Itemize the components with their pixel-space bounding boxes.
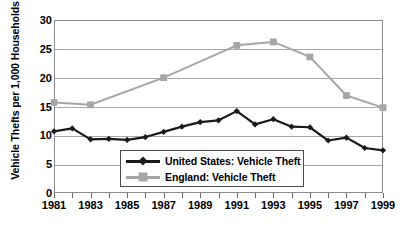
x-tick-mark: [255, 193, 256, 198]
y-tick-label: 30: [6, 14, 52, 27]
x-tick-mark: [292, 193, 293, 198]
legend-label-united-states: United States: Vehicle Theft: [165, 155, 300, 167]
x-tick-mark: [365, 193, 366, 198]
y-axis-ticks: 051015202530: [0, 0, 52, 229]
legend-label-england: England: Vehicle Theft: [165, 171, 275, 183]
x-tick-mark: [310, 193, 311, 198]
x-tick-mark: [383, 193, 384, 198]
x-tick-mark: [109, 193, 110, 198]
x-tick-mark: [145, 193, 146, 198]
y-tick-label: 0: [6, 187, 52, 200]
gridline: [55, 107, 382, 108]
vehicle-theft-line-chart: Vehicle Thefts per 1,000 Households 0510…: [0, 0, 409, 229]
x-tick-label: 1991: [225, 199, 249, 211]
gridline: [55, 49, 382, 50]
x-tick-mark: [54, 193, 55, 198]
x-tick-mark: [237, 193, 238, 198]
x-tick-mark: [164, 193, 165, 198]
x-tick-mark: [200, 193, 201, 198]
y-tick-label: 15: [6, 100, 52, 113]
x-tick-label: 1995: [298, 199, 322, 211]
x-tick-label: 1989: [188, 199, 212, 211]
x-tick-label: 1999: [371, 199, 395, 211]
y-tick-label: 20: [6, 71, 52, 84]
x-tick-mark: [346, 193, 347, 198]
x-tick-label: 1997: [334, 199, 358, 211]
x-tick-mark: [273, 193, 274, 198]
x-tick-label: 1987: [151, 199, 175, 211]
legend-item-united-states: United States: Vehicle Theft: [121, 153, 303, 169]
x-tick-mark: [328, 193, 329, 198]
legend-item-england: England: Vehicle Theft: [121, 169, 303, 185]
x-tick-mark: [219, 193, 220, 198]
x-tick-mark: [182, 193, 183, 198]
x-tick-label: 1993: [261, 199, 285, 211]
x-tick-mark: [72, 193, 73, 198]
x-tick-label: 1981: [42, 199, 66, 211]
y-tick-label: 5: [6, 158, 52, 171]
gridline: [55, 136, 382, 137]
x-tick-label: 1985: [115, 199, 139, 211]
x-tick-mark: [127, 193, 128, 198]
legend: United States: Vehicle Theft England: Ve…: [120, 150, 304, 187]
x-tick-mark: [91, 193, 92, 198]
diamond-marker-icon: [126, 154, 160, 168]
square-marker-icon: [126, 170, 160, 184]
y-tick-label: 10: [6, 129, 52, 142]
x-tick-label: 1983: [78, 199, 102, 211]
y-tick-label: 25: [6, 42, 52, 55]
gridline: [55, 78, 382, 79]
